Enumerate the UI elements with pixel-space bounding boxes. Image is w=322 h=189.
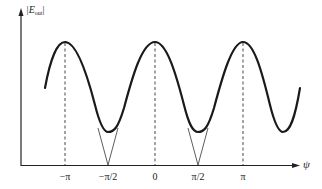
tick-label-neg-pi: −π: [60, 171, 71, 182]
y-axis-label-main: |E: [26, 4, 35, 15]
y-axis-label-sub: out: [35, 10, 43, 16]
x-axis-label: ψ: [303, 158, 310, 170]
y-axis-label: |Eout|: [26, 4, 45, 16]
peak-guide-lines: [65, 43, 243, 165]
plot-canvas: [0, 0, 322, 189]
y-axis-arrow-icon: [19, 8, 24, 16]
tick-label-zero: 0: [153, 171, 158, 182]
zero-crossing-v-lines: [98, 128, 208, 165]
y-axis-label-end: |: [43, 4, 45, 15]
tick-label-pi: π: [240, 171, 245, 182]
sinusoid-curve: [45, 42, 300, 132]
tick-label-neg-half-pi: −π/2: [99, 171, 117, 182]
tick-label-half-pi: π/2: [192, 171, 205, 182]
x-axis-arrow-icon: [292, 163, 300, 168]
